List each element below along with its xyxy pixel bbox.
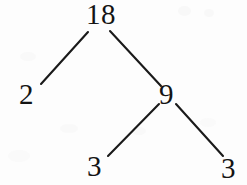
node-mid-9: 9 [159,80,174,109]
edge-mid-to-lower-left [108,104,159,156]
factor-tree-diagram: 18 2 9 3 3 [0,0,247,185]
edge-root-to-mid [110,31,161,86]
edge-root-to-left [41,32,88,84]
node-left-2: 2 [19,80,34,109]
node-lower-left-3: 3 [87,152,102,181]
tree-edges-group [0,0,247,185]
node-lower-right-3: 3 [221,154,236,183]
node-root-18: 18 [86,0,116,29]
edge-mid-to-lower-right [176,104,223,156]
